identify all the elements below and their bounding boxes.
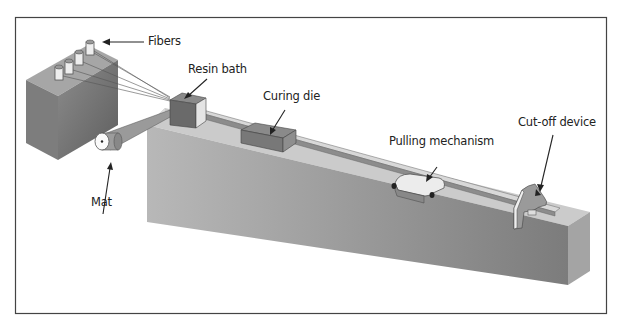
resin-bath bbox=[170, 93, 206, 128]
spool bbox=[86, 40, 94, 55]
label-mat: Mat bbox=[91, 195, 112, 209]
label-fibers: Fibers bbox=[148, 34, 181, 48]
arrowhead-icon bbox=[102, 39, 110, 46]
label-resin-bath: Resin bath bbox=[188, 62, 247, 76]
label-cut-off-device: Cut-off device bbox=[518, 115, 596, 129]
pultrusion-diagram: Fibers Resin bath Curing die Pulling mec… bbox=[0, 0, 618, 325]
arrowhead-icon bbox=[107, 162, 113, 170]
label-curing-die: Curing die bbox=[263, 89, 320, 103]
label-pulling-mechanism: Pulling mechanism bbox=[389, 134, 494, 148]
spool bbox=[65, 59, 73, 74]
spool bbox=[75, 50, 83, 65]
diagram-canvas bbox=[0, 0, 618, 325]
spool bbox=[55, 65, 63, 80]
